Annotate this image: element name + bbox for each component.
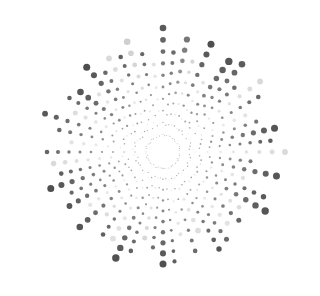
- dot: [103, 184, 106, 187]
- dot: [237, 94, 241, 98]
- dot: [150, 207, 153, 210]
- dot: [252, 202, 258, 208]
- dot: [105, 212, 109, 216]
- dot: [157, 125, 158, 126]
- dot: [224, 187, 228, 191]
- dot: [151, 177, 152, 178]
- ray: [179, 125, 278, 149]
- dot: [172, 102, 174, 104]
- dot: [134, 142, 135, 143]
- dot: [160, 240, 165, 245]
- dot: [211, 106, 214, 109]
- dot: [104, 117, 107, 120]
- dot: [156, 167, 157, 168]
- dot: [186, 193, 188, 195]
- dot: [150, 94, 152, 96]
- dot: [225, 79, 230, 84]
- dot: [225, 92, 229, 96]
- dot: [247, 86, 252, 91]
- dot: [203, 105, 206, 108]
- dot: [221, 204, 225, 208]
- dot: [202, 180, 204, 182]
- dot: [77, 123, 81, 127]
- dot: [219, 145, 221, 147]
- dot: [149, 140, 150, 141]
- dot: [70, 191, 74, 195]
- dot: [169, 219, 171, 221]
- dot: [206, 176, 208, 178]
- ray: [171, 81, 205, 138]
- dot: [169, 167, 170, 168]
- dot: [196, 90, 199, 93]
- dot: [94, 189, 98, 193]
- dot: [129, 114, 131, 116]
- dot: [113, 67, 118, 72]
- dot: [57, 128, 62, 133]
- dot: [154, 115, 156, 117]
- dot: [152, 62, 156, 66]
- dot: [153, 138, 154, 139]
- dot: [217, 87, 221, 91]
- dot: [120, 196, 123, 199]
- dot: [178, 232, 182, 236]
- dot: [142, 169, 143, 170]
- dot: [132, 173, 134, 175]
- dot: [59, 171, 64, 176]
- dot: [134, 131, 136, 133]
- dot: [145, 203, 147, 205]
- dot: [203, 197, 206, 200]
- dot: [143, 172, 144, 173]
- dot: [113, 204, 117, 208]
- dot: [79, 133, 82, 136]
- dot: [92, 173, 96, 177]
- dot: [99, 179, 102, 182]
- ray: [166, 36, 190, 136]
- dot: [118, 190, 121, 193]
- dot: [181, 92, 184, 95]
- dot: [141, 132, 142, 133]
- dot: [151, 245, 155, 249]
- dot: [189, 181, 191, 183]
- dot: [270, 150, 275, 155]
- dot: [119, 147, 121, 149]
- dot: [237, 205, 242, 210]
- dot: [126, 125, 128, 127]
- dot: [134, 113, 136, 115]
- ray: [179, 157, 245, 180]
- dot: [142, 236, 147, 241]
- dot: [168, 209, 170, 211]
- dot: [185, 168, 186, 169]
- dot: [162, 189, 164, 191]
- dot: [83, 64, 90, 71]
- dot: [174, 91, 177, 94]
- dot: [126, 135, 128, 137]
- dot: [263, 171, 269, 177]
- dot: [282, 149, 288, 155]
- dot: [187, 229, 190, 232]
- ray: [160, 25, 167, 135]
- dot: [101, 151, 103, 153]
- dot: [146, 157, 147, 158]
- dot: [154, 187, 156, 189]
- dot: [160, 177, 161, 178]
- dot: [56, 150, 60, 154]
- dot: [179, 155, 180, 156]
- dot: [176, 222, 179, 225]
- dot: [81, 176, 85, 180]
- dot: [156, 207, 158, 209]
- dot: [220, 193, 223, 196]
- dot: [122, 155, 124, 157]
- dot: [122, 128, 124, 130]
- dot: [124, 163, 126, 165]
- dot: [179, 150, 180, 151]
- dot: [85, 106, 89, 110]
- dot: [201, 139, 203, 141]
- dot: [98, 164, 101, 167]
- dot: [195, 197, 197, 199]
- dot: [207, 151, 209, 153]
- dot: [169, 136, 170, 137]
- dot: [145, 151, 146, 152]
- dot: [76, 198, 81, 203]
- dot: [124, 202, 127, 205]
- dot: [165, 178, 166, 179]
